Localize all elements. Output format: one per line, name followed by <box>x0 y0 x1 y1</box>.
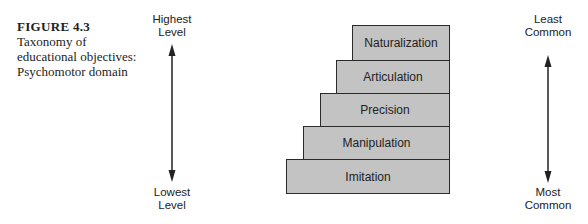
label-line: Level <box>132 199 212 212</box>
level-block-articulation: Articulation <box>336 60 450 94</box>
figure-number: FIGURE 4.3 <box>17 19 136 34</box>
most-common-label: Most Common <box>508 186 588 212</box>
caption-line: Taxonomy of <box>17 34 136 49</box>
label-line: Common <box>508 26 588 39</box>
label-line: Least <box>508 13 588 26</box>
level-block-precision: Precision <box>320 93 450 127</box>
label-line: Level <box>132 26 212 39</box>
label-line: Highest <box>132 13 212 26</box>
level-block-manipulation: Manipulation <box>303 126 450 160</box>
highest-level-label: Highest Level <box>132 13 212 39</box>
least-common-label: Least Common <box>508 13 588 39</box>
caption-line: educational objectives: <box>17 49 136 64</box>
level-block-imitation: Imitation <box>286 159 450 194</box>
level-block-naturalization: Naturalization <box>352 25 450 61</box>
double-arrow-icon <box>162 44 182 184</box>
double-arrow-icon <box>538 55 558 185</box>
lowest-level-label: Lowest Level <box>132 186 212 212</box>
figure-caption: FIGURE 4.3 Taxonomy of educational objec… <box>17 19 136 79</box>
label-line: Lowest <box>132 186 212 199</box>
label-line: Most <box>508 186 588 199</box>
caption-line: Psychomotor domain <box>17 64 136 79</box>
label-line: Common <box>508 199 588 212</box>
